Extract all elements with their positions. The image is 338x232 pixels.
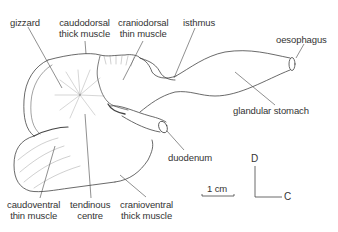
- gizzard-left-edge: [24, 60, 48, 136]
- orientation-cranial-label: C: [284, 191, 291, 202]
- label-duodenum: duodenum: [168, 152, 212, 163]
- orientation-axes: [255, 166, 282, 197]
- leader-caudodorsal: [85, 41, 86, 54]
- label-tendinous-centre: tendinous centre: [70, 199, 110, 221]
- label-gizzard: gizzard: [10, 17, 40, 28]
- label-cranioventral-thick-muscle: cranioventral thick muscle: [120, 199, 173, 221]
- label-caudodorsal-thick-muscle: caudodorsal thick muscle: [59, 17, 110, 39]
- scale-bar: [202, 194, 234, 196]
- caudoventral-lobe: [14, 136, 115, 192]
- isthmus-outline: [140, 58, 176, 78]
- leader-oesophagus: [296, 44, 304, 58]
- leader-cranioventral: [120, 175, 146, 197]
- leader-duodenum: [167, 131, 184, 150]
- duodenum-tube: [110, 106, 166, 122]
- orientation-dorsal-label: D: [251, 153, 258, 164]
- label-oesophagus: oesophagus: [276, 34, 327, 45]
- label-isthmus: isthmus: [183, 17, 215, 28]
- label-caudoventral-thin-muscle: caudoventral thin muscle: [7, 199, 60, 221]
- leader-glandular: [235, 72, 275, 105]
- label-glandular-stomach: glandular stomach: [233, 105, 309, 116]
- scale-bar-label: 1 cm: [207, 183, 227, 194]
- glandular-stomach-top: [176, 51, 290, 76]
- label-craniodorsal-thin-muscle: craniodorsal thin muscle: [118, 17, 169, 39]
- leader-craniodorsal: [123, 41, 143, 80]
- oesophagus-opening: [289, 58, 295, 71]
